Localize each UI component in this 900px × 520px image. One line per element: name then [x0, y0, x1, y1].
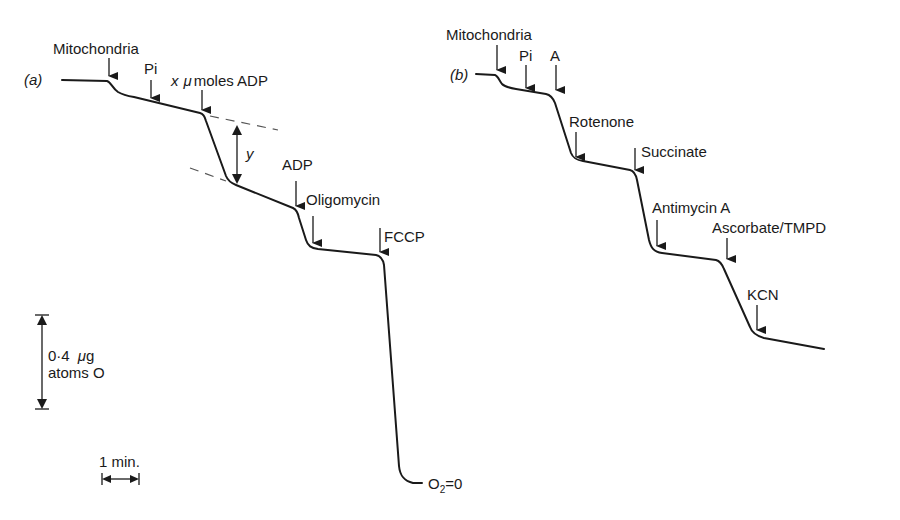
lower-extrapolation-line	[190, 168, 226, 181]
scale-arrowhead-up	[37, 315, 47, 325]
label-a-b: A	[550, 47, 560, 64]
y-label: y	[245, 145, 255, 162]
scale-oxygen-line2: atoms O	[48, 364, 105, 381]
label-rotenone-b: Rotenone	[569, 113, 634, 130]
scale-arrowhead-down	[37, 399, 47, 409]
o2-zero-label: O2=0	[428, 475, 462, 495]
time-arrowhead-left	[102, 475, 111, 483]
time-arrowhead-right	[130, 475, 139, 483]
label-oligomycin-a: Oligomycin	[306, 191, 380, 208]
oxygen-electrode-trace-figure: (a) Mitochondria Pi xμmoles ADP ADP Olig…	[0, 0, 900, 520]
panel-a: (a) Mitochondria Pi xμmoles ADP ADP Olig…	[24, 40, 462, 495]
label-adp-a: ADP	[282, 156, 313, 173]
label-pi-a: Pi	[144, 60, 157, 77]
scale-bar-time: 1 min.	[99, 453, 140, 485]
label-mitochondria-b: Mitochondria	[446, 26, 533, 43]
label-x-umoles-adp-a: xμmoles ADP	[170, 72, 268, 89]
label-fccp-a: FCCP	[384, 228, 425, 245]
scale-time-label: 1 min.	[99, 453, 140, 470]
label-succinate-b: Succinate	[641, 143, 707, 160]
label-antimycin-b: Antimycin A	[652, 199, 730, 216]
scale-bar-oxygen: 0·4μg atoms O	[35, 315, 105, 409]
scale-oxygen-line1: 0·4μg	[48, 347, 94, 364]
y-arrowhead-up	[232, 125, 242, 135]
panel-b-label: (b)	[450, 66, 468, 83]
panel-b: (b) Mitochondria Pi A Rotenone Succinate…	[446, 26, 826, 349]
label-mitochondria-a: Mitochondria	[53, 40, 140, 57]
upper-extrapolation-line	[210, 116, 278, 130]
label-kcn-b: KCN	[747, 286, 779, 303]
panel-b-oxygen-trace	[476, 74, 824, 349]
label-ascorbate-tmpd-b: Ascorbate/TMPD	[712, 219, 826, 236]
label-pi-b: Pi	[519, 47, 532, 64]
panel-a-oxygen-trace	[62, 80, 422, 483]
y-arrowhead-down	[232, 174, 242, 184]
panel-a-label: (a)	[24, 71, 42, 88]
